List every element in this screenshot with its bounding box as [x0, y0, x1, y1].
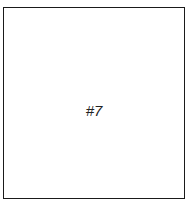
numbered-panel: #7: [3, 7, 185, 199]
panel-number-label: #7: [4, 103, 184, 119]
